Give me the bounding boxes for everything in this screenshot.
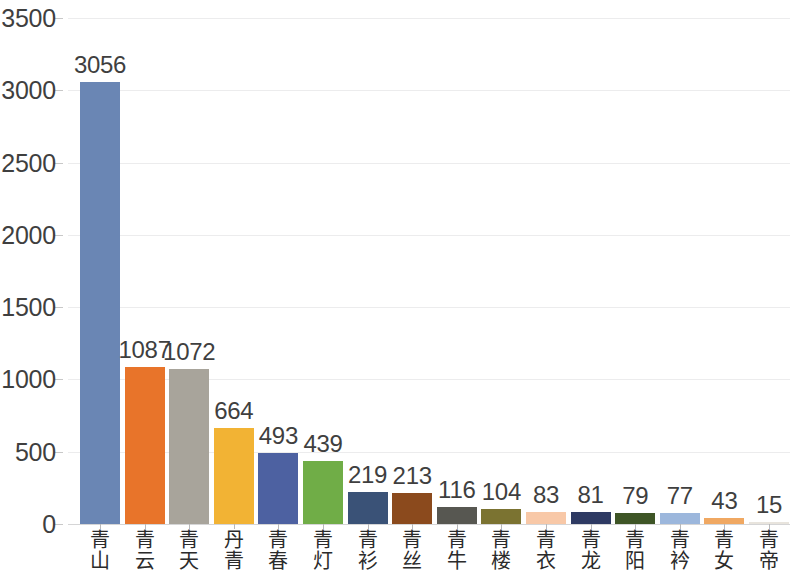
x-axis-label-丹青: 丹青 — [212, 530, 256, 571]
bar-青牛[interactable] — [437, 507, 477, 524]
y-tick-label: 2500 — [1, 151, 56, 176]
bar-value-label: 3056 — [60, 53, 140, 77]
y-tick-label: 3500 — [1, 6, 56, 31]
y-tick-label: 2000 — [1, 223, 56, 248]
bar-value-label: 15 — [729, 493, 797, 517]
gridline-1500 — [68, 307, 790, 308]
bar-青衿[interactable] — [660, 513, 700, 524]
x-axis-label-青楼: 青楼 — [479, 530, 523, 571]
x-axis-label-青阳: 青阳 — [613, 530, 657, 571]
x-axis-label-青丝: 青丝 — [390, 530, 434, 571]
x-axis-label-青衣: 青衣 — [524, 530, 568, 571]
x-axis-label-青灯: 青灯 — [301, 530, 345, 571]
y-tick-label: 1500 — [1, 295, 56, 320]
bar-value-label: 1072 — [149, 340, 229, 364]
gridline-2500 — [68, 163, 790, 164]
x-axis-label-青衿: 青衿 — [658, 530, 702, 571]
x-axis-label-青牛: 青牛 — [435, 530, 479, 571]
y-tick-label: 500 — [15, 440, 56, 465]
x-axis-label-青帝: 青帝 — [747, 530, 791, 571]
bar-青龙[interactable] — [571, 512, 611, 524]
bar-value-label: 664 — [194, 399, 274, 423]
x-axis-label-青女: 青女 — [702, 530, 746, 571]
bar-青云[interactable] — [125, 367, 165, 524]
x-axis-label-青春: 青春 — [256, 530, 300, 571]
bar-青天[interactable] — [169, 369, 209, 524]
x-axis-label-青云: 青云 — [123, 530, 167, 571]
y-tick-label: 1000 — [1, 367, 56, 392]
bar-value-label: 439 — [283, 432, 363, 456]
bar-青楼[interactable] — [481, 509, 521, 524]
bar-青阳[interactable] — [615, 513, 655, 524]
x-axis-label-青龙: 青龙 — [569, 530, 613, 571]
gridline-3500 — [68, 18, 790, 19]
bar-青衫[interactable] — [348, 492, 388, 524]
y-tick-label: 0 — [42, 512, 56, 537]
x-axis-label-青天: 青天 — [167, 530, 211, 571]
y-tick-label: 3000 — [1, 78, 56, 103]
gridline-3000 — [68, 90, 790, 91]
x-axis-label-青衫: 青衫 — [346, 530, 390, 571]
bar-青衣[interactable] — [526, 512, 566, 524]
bar-青山[interactable] — [80, 82, 120, 524]
bar-青春[interactable] — [258, 453, 298, 524]
x-axis-label-青山: 青山 — [78, 530, 122, 571]
gridline-0 — [68, 524, 790, 525]
gridline-2000 — [68, 235, 790, 236]
bar-chart: 0500100015002000250030003500 30561087107… — [0, 0, 797, 583]
